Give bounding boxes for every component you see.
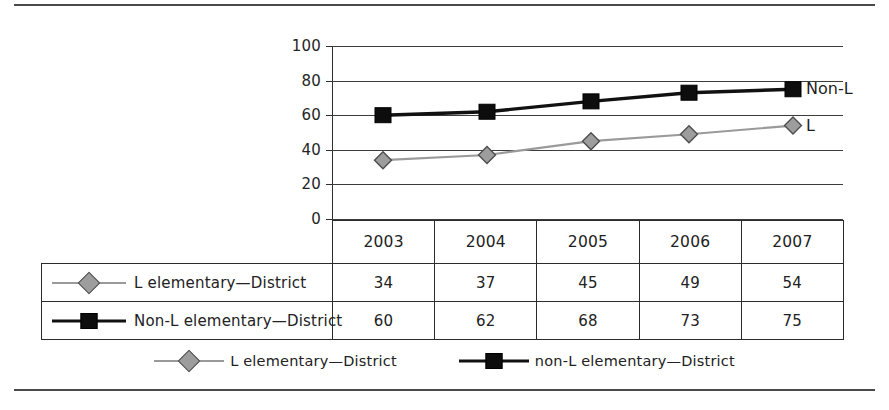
table-cell: 73	[639, 302, 741, 340]
swatch-marker	[89, 283, 105, 299]
series-swatch	[52, 274, 126, 292]
legend-item-label: L elementary—District	[230, 353, 397, 369]
swatch-marker	[494, 361, 511, 377]
table-column-header: 2006	[639, 221, 741, 264]
table-column-header: 2003	[333, 221, 435, 264]
table-cell: 37	[435, 264, 537, 302]
legend-item: non-L elementary—District	[459, 352, 735, 370]
series-marker-square	[479, 104, 495, 119]
y-axis-tick-label: 40	[302, 142, 322, 157]
series-plot	[332, 46, 843, 219]
table-corner-cell	[42, 221, 333, 264]
table-cell: 54	[741, 264, 843, 302]
series-marker-diamond	[479, 146, 496, 163]
table-series-label: Non-L elementary—District	[134, 312, 342, 330]
series-marker-square	[785, 82, 801, 97]
marker-diamond-icon	[178, 350, 201, 373]
y-axis-tick-label: 80	[302, 73, 322, 88]
marker-diamond-icon	[78, 271, 101, 294]
series-edge-label: L	[806, 118, 815, 134]
swatch-marker	[89, 321, 106, 337]
series-swatch	[154, 352, 224, 370]
series-marker-diamond	[681, 126, 698, 143]
plot-area: 020406080100	[332, 46, 843, 219]
table-column-header: 2007	[741, 221, 843, 264]
table-cell: 68	[537, 302, 639, 340]
series-marker-diamond	[375, 152, 392, 169]
y-axis-tick-label: 100	[292, 39, 321, 54]
table-series-label-cell: L elementary—District	[42, 264, 333, 302]
series-marker-square	[375, 108, 391, 123]
series-marker-square	[681, 85, 697, 100]
legend-item-label: non-L elementary—District	[535, 353, 735, 369]
swatch-marker	[189, 361, 205, 377]
table-cell: 49	[639, 264, 741, 302]
table-column-header: 2004	[435, 221, 537, 264]
y-axis-tick-label: 20	[302, 177, 322, 192]
series-edge-label: Non-L	[806, 81, 853, 97]
series-swatch	[52, 312, 126, 330]
table-cell: 62	[435, 302, 537, 340]
table-row: L elementary—District3437454954	[42, 264, 844, 302]
table-column-header: 2005	[537, 221, 639, 264]
table-row: Non-L elementary—District6062687375	[42, 302, 844, 340]
chart-legend: L elementary—Districtnon-L elementary—Di…	[0, 352, 889, 370]
series-marker-square	[583, 94, 599, 109]
series-marker-diamond	[785, 117, 802, 134]
series-marker-diamond	[583, 133, 600, 150]
y-axis-tick-label: 60	[302, 108, 322, 123]
table-cell: 45	[537, 264, 639, 302]
table-series-label: L elementary—District	[134, 274, 306, 292]
legend-item: L elementary—District	[154, 352, 397, 370]
table-series-label-cell: Non-L elementary—District	[42, 302, 333, 340]
table-cell: 34	[333, 264, 435, 302]
series-swatch	[459, 352, 529, 370]
data-table: 20032004200520062007L elementary—Distric…	[41, 220, 844, 340]
marker-square-icon	[485, 353, 502, 369]
line-chart-figure: 020406080100 LNon-L 20032004200520062007…	[0, 0, 889, 410]
table-cell: 60	[333, 302, 435, 340]
table-header-row: 20032004200520062007	[42, 221, 844, 264]
table-cell: 75	[741, 302, 843, 340]
marker-square-icon	[81, 313, 98, 329]
